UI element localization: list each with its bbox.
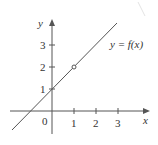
corner-artifact-line <box>138 2 145 16</box>
y-axis-arrow-icon <box>49 19 55 26</box>
x-tick-label-2: 2 <box>93 117 99 129</box>
open-circle-hole <box>72 65 76 69</box>
function-graph: y 3 2 1 0 1 2 3 x y = f(x) <box>0 0 158 145</box>
function-label: y = f(x) <box>109 38 143 51</box>
x-tick-label-1: 1 <box>71 117 77 129</box>
origin-label: 0 <box>42 115 48 127</box>
y-tick-label-1: 1 <box>40 83 46 95</box>
y-tick-label-3: 3 <box>40 39 46 51</box>
y-axis-label: y <box>37 17 43 29</box>
y-tick-label-2: 2 <box>40 61 46 73</box>
x-axis-label: x <box>142 114 148 126</box>
function-line <box>12 23 117 130</box>
y-axis <box>49 19 55 134</box>
x-tick-label-3: 3 <box>115 117 121 129</box>
